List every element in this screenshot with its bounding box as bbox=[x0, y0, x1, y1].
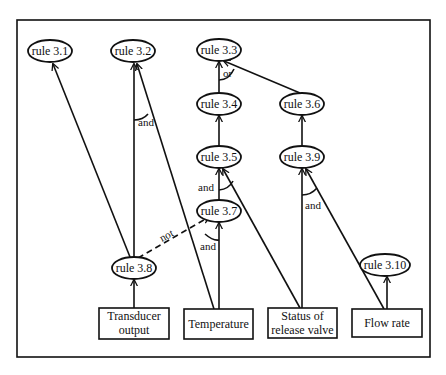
rule-label: rule 3.5 bbox=[201, 150, 238, 164]
connector-label-or-33: or bbox=[223, 67, 233, 79]
edge-valve-r35 bbox=[223, 169, 300, 308]
input-box-valve: Status ofrelease valve bbox=[268, 308, 337, 338]
rule-node-r38: rule 3.8 bbox=[112, 257, 156, 279]
connector-label-not-38: not bbox=[157, 227, 175, 244]
input-label: Flow rate bbox=[364, 316, 410, 330]
rule-node-r32: rule 3.2 bbox=[111, 40, 155, 62]
rule-node-r36: rule 3.6 bbox=[280, 93, 324, 115]
rule-label: rule 3.6 bbox=[284, 97, 321, 111]
rule-label: rule 3.8 bbox=[116, 261, 153, 275]
input-label: release valve bbox=[271, 323, 333, 337]
input-label: Status of bbox=[281, 309, 323, 323]
rule-node-r35: rule 3.5 bbox=[197, 146, 241, 168]
rule-label: rule 3.7 bbox=[201, 204, 238, 218]
rule-label: rule 3.2 bbox=[115, 44, 152, 58]
rule-node-r34: rule 3.4 bbox=[197, 93, 241, 115]
edge-flow-r39 bbox=[306, 169, 384, 309]
input-label: output bbox=[119, 323, 150, 337]
rule-label: rule 3.9 bbox=[284, 150, 321, 164]
rule-node-r37: rule 3.7 bbox=[197, 200, 241, 222]
rule-label: rule 3.3 bbox=[201, 43, 238, 57]
rule-node-r310: rule 3.10 bbox=[360, 254, 410, 276]
input-box-temperature: Temperature bbox=[184, 309, 253, 339]
rule-label: rule 3.10 bbox=[364, 258, 407, 272]
inference-network-diagram: rule 3.1rule 3.2rule 3.3rule 3.4rule 3.6… bbox=[0, 0, 446, 375]
rule-node-r39: rule 3.9 bbox=[280, 146, 324, 168]
connector-label-and-35: and bbox=[198, 181, 214, 193]
input-box-flow: Flow rate bbox=[352, 309, 422, 337]
rule-label: rule 3.4 bbox=[201, 97, 238, 111]
rule-label: rule 3.1 bbox=[32, 44, 69, 58]
and-arc-r39 bbox=[302, 188, 317, 195]
input-label: Transducer bbox=[107, 309, 161, 323]
input-label: Temperature bbox=[188, 317, 248, 331]
rule-node-r31: rule 3.1 bbox=[28, 40, 72, 62]
connector-label-and-32: and bbox=[138, 116, 154, 128]
edge-r36-r33 bbox=[224, 61, 300, 93]
connector-label-and-39: and bbox=[305, 199, 321, 211]
edge-r38-r31 bbox=[53, 64, 130, 257]
input-box-transducer: Transduceroutput bbox=[99, 308, 169, 339]
input-boxes: TransduceroutputTemperatureStatus ofrele… bbox=[99, 308, 422, 339]
connector-label-and-37: and bbox=[200, 240, 216, 252]
rule-node-r33: rule 3.3 bbox=[197, 39, 241, 61]
